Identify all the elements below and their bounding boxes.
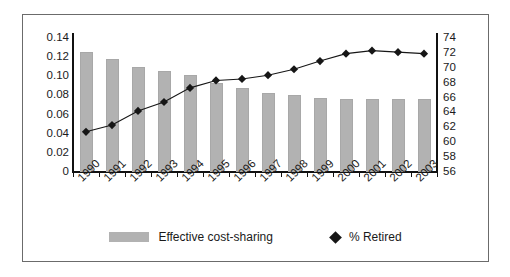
retired-marker-1997: [264, 71, 272, 79]
right-axis-tick: 56: [443, 166, 456, 178]
right-axis-tick: 72: [443, 47, 456, 59]
retired-marker-1990: [82, 128, 90, 136]
retired-marker-1993: [160, 98, 168, 106]
retired-marker-2001: [368, 47, 376, 55]
x-axis-tick-mark: [73, 173, 74, 177]
left-axis-tick: 0.12: [47, 51, 69, 63]
retired-marker-1996: [238, 75, 246, 83]
x-axis-category-labels: 1990199119921993199419951996199719981999…: [73, 176, 437, 220]
diamond-marker-icon: [329, 231, 342, 244]
right-axis-tick: 74: [443, 32, 456, 44]
retired-marker-2003: [420, 50, 428, 58]
x-axis-tick-mark: [99, 173, 100, 177]
right-axis-tick: 70: [443, 62, 456, 74]
x-axis-tick-mark: [333, 173, 334, 177]
x-axis-tick-mark: [281, 173, 282, 177]
bar-swatch-icon: [109, 232, 149, 242]
chart-legend: Effective cost-sharing% Retired: [22, 230, 489, 254]
left-axis-tick: 0.04: [47, 128, 69, 140]
left-axis-tick: 0.14: [47, 32, 69, 44]
retired-line-series: [73, 38, 437, 172]
right-axis-tick: 60: [443, 136, 456, 148]
x-axis-tick-mark: [385, 173, 386, 177]
left-axis-tick: 0.06: [47, 109, 69, 121]
right-axis-tick: 66: [443, 92, 456, 104]
left-axis-tick: 0.02: [47, 147, 69, 159]
retired-marker-1995: [212, 76, 220, 84]
left-axis-tick: 0.10: [47, 70, 69, 82]
x-axis-tick-mark: [411, 173, 412, 177]
x-axis-tick-mark: [359, 173, 360, 177]
right-axis-tick: 68: [443, 77, 456, 89]
legend-entry-2[interactable]: % Retired: [331, 230, 402, 244]
x-axis-tick-mark: [125, 173, 126, 177]
legend-label: Effective cost-sharing: [158, 230, 273, 244]
retired-line-path: [86, 51, 424, 132]
x-axis-tick-mark: [177, 173, 178, 177]
left-axis-tick: 0.08: [47, 89, 69, 101]
left-axis-tick: 0: [63, 166, 69, 178]
retired-marker-2000: [342, 50, 350, 58]
retired-marker-1994: [186, 84, 194, 92]
retired-marker-1992: [134, 107, 142, 115]
retired-marker-1998: [290, 65, 298, 73]
x-axis-tick-mark: [255, 173, 256, 177]
legend-entry-1[interactable]: Effective cost-sharing: [109, 230, 273, 244]
right-axis-tick: 58: [443, 151, 456, 163]
x-axis-tick-mark: [203, 173, 204, 177]
right-axis-tick: 62: [443, 121, 456, 133]
x-axis-tick-mark: [229, 173, 230, 177]
x-axis-tick-mark: [307, 173, 308, 177]
x-axis-tick-mark: [151, 173, 152, 177]
chart-figure: 0.140.120.100.080.060.040.020 7472706866…: [0, 0, 510, 277]
legend-label: % Retired: [349, 230, 402, 244]
retired-marker-2002: [394, 48, 402, 56]
x-axis-tick-mark: [437, 173, 438, 177]
retired-marker-1999: [316, 57, 324, 65]
right-axis-tick: 64: [443, 106, 456, 118]
retired-marker-1991: [108, 121, 116, 129]
